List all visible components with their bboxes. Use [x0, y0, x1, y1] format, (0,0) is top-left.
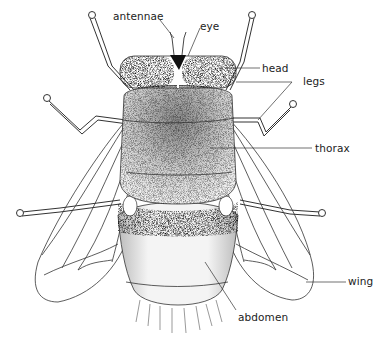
label-head: head — [262, 63, 289, 74]
thorax-drawing — [120, 86, 236, 205]
fly-diagram — [0, 0, 378, 338]
label-thorax: thorax — [315, 143, 350, 154]
label-legs: legs — [303, 76, 325, 87]
label-antennae: antennae — [113, 11, 164, 22]
abdomen-drawing — [118, 196, 238, 333]
label-abdomen: abdomen — [238, 312, 288, 323]
head-drawing — [120, 32, 236, 88]
label-eye: eye — [200, 21, 219, 32]
label-wing: wing — [348, 276, 373, 287]
